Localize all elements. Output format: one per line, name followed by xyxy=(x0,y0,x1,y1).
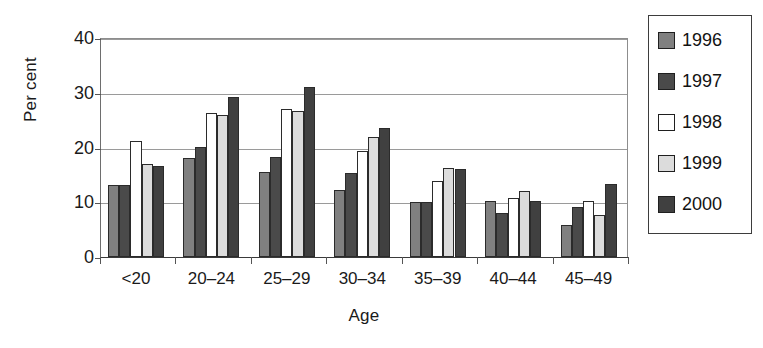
x-axis-tick-labels: <2020–2425–2930–3435–3940–4445–49 xyxy=(100,268,628,294)
bar xyxy=(206,113,217,257)
y-tick-label-20: 20 xyxy=(48,139,94,157)
bar-group xyxy=(183,38,239,257)
chart-legend: 19961997199819992000 xyxy=(648,15,752,234)
bar xyxy=(292,111,303,257)
legend-swatch-icon xyxy=(658,196,675,213)
x-tick-label: 25–29 xyxy=(249,268,324,290)
bar xyxy=(217,115,228,257)
x-axis-title: Age xyxy=(100,306,628,326)
bar xyxy=(183,158,194,257)
bar xyxy=(228,97,239,257)
bar xyxy=(496,213,507,257)
x-tick-label: 45–49 xyxy=(551,268,626,290)
legend-item-1997[interactable]: 1997 xyxy=(658,70,722,92)
chart-figure: Per cent 010203040 <2020–2425–2930–3435–… xyxy=(0,0,763,348)
bar xyxy=(334,190,345,257)
legend-label: 1999 xyxy=(682,154,722,172)
bar xyxy=(561,225,572,257)
bar-group xyxy=(108,38,164,257)
x-tick-label: <20 xyxy=(98,268,173,290)
y-tick-label-10: 10 xyxy=(48,193,94,211)
legend-label: 1998 xyxy=(682,113,722,131)
x-tick-label: 20–24 xyxy=(174,268,249,290)
bar xyxy=(153,166,164,257)
y-axis-title: Per cent xyxy=(18,2,44,122)
x-tick-mark xyxy=(553,257,554,264)
legend-swatch-icon xyxy=(658,114,675,131)
x-tick-mark xyxy=(326,257,327,264)
x-tick-mark xyxy=(175,257,176,264)
bar xyxy=(530,201,541,257)
bar xyxy=(455,169,466,257)
y-tick-label-30: 30 xyxy=(48,84,94,102)
bar xyxy=(108,185,119,257)
bar-group xyxy=(561,38,617,257)
x-tick-mark xyxy=(477,257,478,264)
bar-group xyxy=(485,38,541,257)
bar xyxy=(443,168,454,257)
bar xyxy=(130,141,141,257)
bar xyxy=(421,202,432,257)
legend-label: 1996 xyxy=(682,31,722,49)
bar xyxy=(508,198,519,257)
x-tick-mark xyxy=(628,257,629,264)
legend-item-1999[interactable]: 1999 xyxy=(658,152,722,174)
x-tick-mark xyxy=(100,257,101,264)
bar xyxy=(410,202,421,257)
x-tick-mark xyxy=(251,257,252,264)
legend-swatch-icon xyxy=(658,73,675,90)
bar xyxy=(357,151,368,257)
legend-item-1998[interactable]: 1998 xyxy=(658,111,722,133)
bar xyxy=(519,191,530,257)
bar xyxy=(605,184,616,257)
y-axis-tick-labels: 010203040 xyxy=(48,0,94,348)
bar xyxy=(583,201,594,257)
legend-label: 1997 xyxy=(682,72,722,90)
y-tick-label-40: 40 xyxy=(48,29,94,47)
x-tick-mark xyxy=(402,257,403,264)
bar xyxy=(485,201,496,257)
bar xyxy=(259,172,270,257)
bar xyxy=(270,157,281,257)
legend-swatch-icon xyxy=(658,32,675,49)
bar xyxy=(345,173,356,257)
x-tick-label: 40–44 xyxy=(475,268,550,290)
x-tick-label: 30–34 xyxy=(325,268,400,290)
bar-group xyxy=(334,38,390,257)
bar xyxy=(142,164,153,257)
bar-group xyxy=(259,38,315,257)
legend-item-1996[interactable]: 1996 xyxy=(658,29,722,51)
bar-group xyxy=(410,38,466,257)
bar xyxy=(281,109,292,257)
bar-series-container xyxy=(100,38,628,257)
bar xyxy=(304,87,315,257)
x-axis-tick-marks xyxy=(100,257,629,267)
bar xyxy=(368,137,379,257)
bar xyxy=(379,128,390,257)
legend-label: 2000 xyxy=(682,195,722,213)
legend-swatch-icon xyxy=(658,155,675,172)
bar xyxy=(432,181,443,257)
bar xyxy=(119,185,130,257)
y-tick-label-0: 0 xyxy=(48,248,94,266)
bar xyxy=(572,207,583,257)
x-tick-label: 35–39 xyxy=(400,268,475,290)
legend-item-2000[interactable]: 2000 xyxy=(658,193,722,215)
bar xyxy=(195,147,206,257)
bar xyxy=(594,215,605,257)
